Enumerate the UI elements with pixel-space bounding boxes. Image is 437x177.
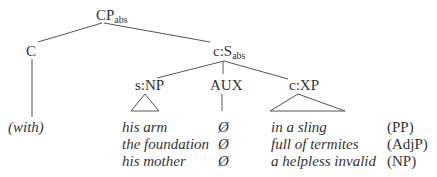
node-subscript: abs (232, 50, 245, 61)
subject-text: his arm (122, 119, 167, 135)
predicate-text: in a sling (271, 119, 327, 135)
subject-text: the foundation (122, 136, 209, 152)
aux-text: Ø (218, 153, 229, 169)
predicate-text: a helpless invalid (271, 153, 376, 169)
branch-s-np (157, 61, 224, 78)
node-label: s:NP (135, 77, 164, 93)
category-label: (NP) (387, 153, 416, 169)
aux-text: Ø (218, 136, 229, 152)
node-subscript: abs (114, 14, 127, 25)
predicate-text: full of termites (271, 136, 359, 152)
node-label: AUX (210, 77, 243, 93)
triangle-np (131, 94, 159, 111)
aux-text: Ø (218, 119, 229, 135)
category-label: (AdjP) (387, 136, 428, 152)
category-label: (PP) (387, 119, 414, 135)
leaf-with: (with) (8, 119, 44, 135)
node-aux: AUX (210, 78, 243, 93)
branch-cp-s (104, 23, 210, 42)
node-label: CP (96, 7, 114, 23)
node-cp-abs: CPabs (96, 8, 128, 23)
triangle-xp (270, 94, 345, 111)
subject-text: his mother (122, 153, 186, 169)
node-c: C (26, 44, 36, 59)
node-label: C (26, 43, 36, 59)
node-label: c:XP (289, 77, 319, 93)
branch-cp-c (38, 23, 102, 42)
node-s-np: s:NP (135, 78, 164, 93)
node-c-xp: c:XP (289, 78, 319, 93)
node-s-abs: c:Sabs (213, 44, 246, 59)
node-label: c:S (213, 43, 232, 59)
